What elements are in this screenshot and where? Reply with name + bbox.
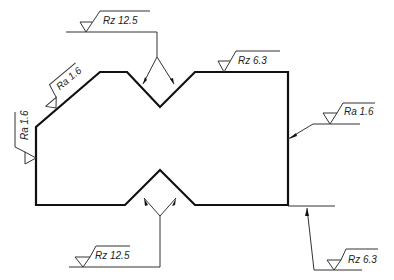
label-rz-12-5-bottom: Rz 12.5: [95, 250, 130, 261]
part-outline: [36, 72, 288, 205]
annotation-bottom-right: Rz 6.3: [288, 206, 378, 270]
label-ra-1-6-left: Ra 1.6: [19, 110, 30, 140]
label-rz-12-5-top: Rz 12.5: [103, 15, 138, 26]
label-ra-1-6-right: Ra 1.6: [344, 106, 374, 117]
annotation-bottom-center: Rz 12.5: [69, 198, 176, 267]
label-rz-6-3-bottom: Rz 6.3: [348, 254, 377, 265]
annotation-right-side: Ra 1.6: [288, 103, 375, 139]
label-rz-6-3-top: Rz 6.3: [238, 55, 267, 66]
annotation-left-side: Ra 1.6: [15, 110, 36, 164]
annotation-top-right: Rz 6.3: [218, 51, 280, 72]
roughness-drawing: Rz 12.5 Rz 6.3 Ra 1.6 Ra 1.6 Ra 1.6 Rz 1: [0, 0, 394, 280]
